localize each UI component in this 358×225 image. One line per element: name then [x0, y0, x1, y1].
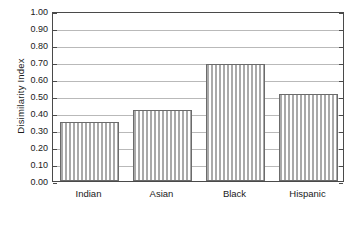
y-axis-tick-label: 1.00 — [16, 8, 48, 17]
x-axis-category-label: Indian — [52, 188, 125, 200]
bar — [279, 94, 337, 181]
x-axis-category-label: Asian — [125, 188, 198, 200]
y-axis-tick-label: 0.60 — [16, 76, 48, 85]
y-axis-tick-label: 0.20 — [16, 144, 48, 153]
y-axis-tick-label: 0.00 — [16, 178, 48, 187]
y-axis-tick-label: 0.10 — [16, 161, 48, 170]
x-axis-category-label-group: IndianAsianBlackHispanic — [52, 188, 344, 204]
y-axis-tick-label: 0.40 — [16, 110, 48, 119]
bar-chart: Disimilarity Index 0.000.100.200.300.400… — [0, 0, 358, 225]
bar — [206, 64, 264, 181]
y-axis-tick-label-group: 0.000.100.200.300.400.500.600.700.800.90… — [16, 12, 48, 182]
y-axis-tick-label: 0.30 — [16, 127, 48, 136]
x-axis-category-label: Hispanic — [271, 188, 344, 200]
bars-layer — [53, 13, 343, 181]
y-axis-tick-label: 0.90 — [16, 25, 48, 34]
bar — [133, 110, 191, 181]
bar — [60, 122, 118, 182]
y-axis-tick-label: 0.80 — [16, 42, 48, 51]
y-axis-tick-label: 0.70 — [16, 59, 48, 68]
y-axis-tick-mark — [53, 183, 57, 184]
plot-area — [52, 12, 344, 182]
x-axis-category-label: Black — [198, 188, 271, 200]
y-axis-tick-label: 0.50 — [16, 93, 48, 102]
y-axis-tick-mark-right — [339, 183, 343, 184]
